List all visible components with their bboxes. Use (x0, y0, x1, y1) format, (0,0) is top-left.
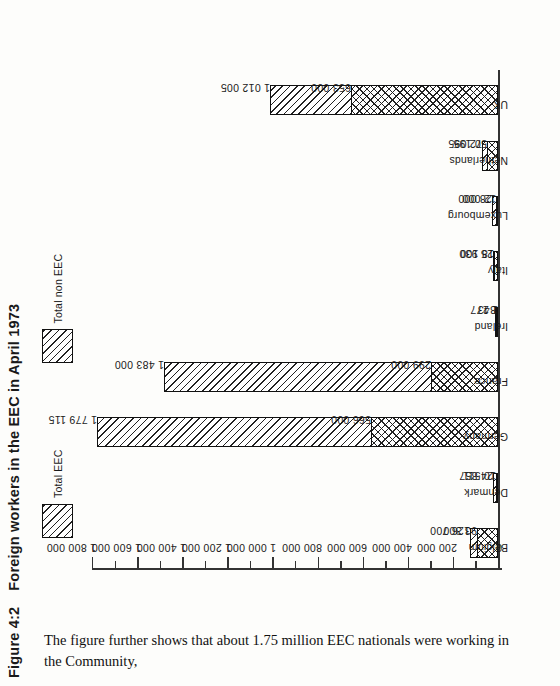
bar-slot: 653 0001 012 005 (92, 70, 498, 125)
category-label-luxembourg: Luxembourg (504, 181, 560, 236)
plot-area: 93 300126 70010 51124 857566 0001 779 11… (92, 70, 500, 568)
axis-tick-minor (430, 561, 431, 570)
category-label-text: UK (493, 99, 508, 111)
value-label-total: 28 000 (458, 193, 492, 205)
category-label-text: Luxembourg (448, 210, 508, 222)
bar-slot: 10 51124 857 (92, 457, 498, 512)
value-label-total: 25 930 (459, 248, 493, 260)
bar-slot: 12 00028 000 (92, 181, 498, 236)
legend-swatch-total-non-eec (42, 330, 73, 364)
value-label-eec: 653 000 (311, 82, 351, 94)
value-label-total: 1 483 000 (115, 359, 164, 371)
bar-segment-eec (351, 85, 498, 115)
bar-france: 299 0001 483 000 (164, 362, 498, 392)
axis-tick (137, 557, 138, 570)
figure-title-text: Foreign workers in the EEC in April 1973 (6, 304, 22, 591)
axis-tick-label: 800 000 (281, 542, 321, 554)
axis-tick-label: 200 000 (417, 542, 457, 554)
axis-tick-label: 1 000 000 (227, 542, 276, 554)
axis-tick (182, 557, 183, 570)
value-label-eec: 566 000 (331, 414, 371, 426)
bar-slot: 18 10025 930 (92, 236, 498, 291)
rotated-figure-canvas: Figure 4:2Foreign workers in the EEC in … (0, 0, 560, 686)
category-label-belgium: Belgium (504, 513, 560, 568)
category-labels: BelgiumDenmarkGermanyFranceIrelandItalyL… (504, 70, 560, 568)
category-label-ireland: Ireland (504, 291, 560, 346)
axis-tick-label: 1 600 000 (92, 542, 141, 554)
axis-tick-label: 400 000 (372, 542, 412, 554)
axis-tick-minor (205, 561, 206, 570)
page-title: Figure 4:2Foreign workers in the EEC in … (6, 304, 22, 678)
axis-tick (453, 557, 454, 570)
value-label-total: 24 857 (459, 470, 493, 482)
category-label-text: Germany (463, 431, 508, 443)
legend-label-total-non-eec: Total non EEC (52, 254, 64, 324)
legend-label-total-eec: Total EEC (52, 450, 64, 499)
value-label-total: 72 095 (448, 138, 482, 150)
axis-tick (498, 557, 499, 570)
value-label-total: 1 779 115 (48, 414, 97, 426)
figure-page: Figure 4:2Foreign workers in the EEC in … (0, 0, 560, 686)
bar-slot: 299 0001 483 000 (92, 347, 498, 402)
value-label-total: 1 277 (470, 304, 498, 316)
axis-tick-minor (475, 561, 476, 570)
legend-swatch-total-eec (42, 504, 73, 538)
axis-tick-minor (160, 561, 161, 570)
category-label-italy: Italy (504, 236, 560, 291)
bar-slot: 50 19572 095 (92, 125, 498, 180)
category-label-denmark: Denmark (504, 457, 560, 512)
category-label-text: Italy (488, 265, 508, 277)
legend-item-total-non-eec: Total non EEC (42, 254, 73, 364)
chart-legend: Total EEC Total non EEC (42, 254, 73, 538)
bar-slot: 8431 277 (92, 291, 498, 346)
axis-tick (363, 557, 364, 570)
category-label-text: Belgium (469, 542, 508, 554)
category-label-text: Ireland (474, 321, 508, 333)
category-label-text: Netherlands (449, 155, 508, 167)
category-label-netherlands: Netherlands (504, 125, 560, 180)
figure-number: Figure 4:2 (6, 607, 22, 678)
axis-tick (272, 557, 273, 570)
axis-tick (92, 557, 93, 570)
value-axis-line (92, 568, 502, 570)
bar-segment-non-eec (97, 417, 371, 447)
axis-tick-label: 1 200 000 (182, 542, 231, 554)
axis-tick (318, 557, 319, 570)
bar-germany: 566 0001 779 115 (97, 417, 498, 447)
legend-item-total-eec: Total EEC (42, 450, 73, 539)
bar-uk: 653 0001 012 005 (270, 85, 498, 115)
category-label-germany: Germany (504, 402, 560, 457)
bar-slot: 566 0001 779 115 (92, 402, 498, 457)
category-label-uk: UK (504, 70, 560, 125)
category-label-text: France (474, 376, 508, 388)
category-label-text: Denmark (464, 487, 508, 499)
body-paragraph: The figure further shows that about 1.75… (44, 630, 518, 672)
axis-tick-label: 1 800 000 (47, 542, 96, 554)
axis-tick (408, 557, 409, 570)
value-label-total: 126 700 (430, 525, 470, 537)
axis-tick-label: 1 400 000 (137, 542, 186, 554)
value-label-eec: 299 000 (391, 359, 431, 371)
axis-tick-label: 600 000 (327, 542, 367, 554)
axis-tick-minor (340, 561, 341, 570)
bar-slot: 93 300126 700 (92, 513, 498, 568)
axis-tick-minor (295, 561, 296, 570)
value-label-total: 1 012 005 (221, 82, 270, 94)
axis-tick-minor (115, 561, 116, 570)
bar-group: 93 300126 70010 51124 857566 0001 779 11… (92, 70, 498, 568)
axis-tick (227, 557, 228, 570)
category-label-france: France (504, 347, 560, 402)
axis-tick-minor (385, 561, 386, 570)
axis-tick-minor (250, 561, 251, 570)
